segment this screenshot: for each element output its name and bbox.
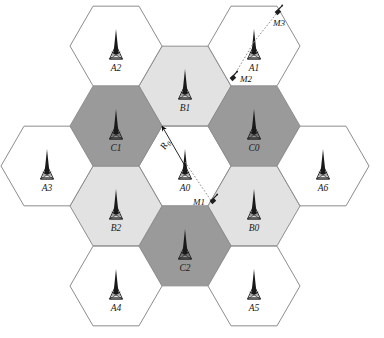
cellular-network-diagram: A0B1C0B0C2B2C1A2A1A6A5A4A3 R0 M1M2M3 (0, 0, 384, 338)
cell-label-a1: A1 (248, 63, 260, 73)
cell-label-c2: C2 (179, 263, 190, 273)
cell-label-c1: C1 (110, 143, 121, 153)
cell-label-c0: C0 (248, 143, 259, 153)
mobile-label-m2: M2 (239, 74, 252, 84)
cell-label-b1: B1 (180, 103, 191, 113)
cell-label-a4: A4 (110, 303, 122, 313)
cell-label-a2: A2 (110, 63, 122, 73)
cell-label-b0: B0 (249, 223, 260, 233)
mobile-label-m3: M3 (272, 18, 285, 28)
cell-label-b2: B2 (111, 223, 122, 233)
mobile-label-m1: M1 (192, 197, 205, 207)
cell-label-a5: A5 (248, 303, 260, 313)
hex-grid-canvas: A0B1C0B0C2B2C1A2A1A6A5A4A3 R0 M1M2M3 (0, 0, 384, 338)
cell-label-a3: A3 (41, 183, 53, 193)
cell-label-a6: A6 (317, 183, 329, 193)
cell-label-a0: A0 (179, 183, 191, 193)
